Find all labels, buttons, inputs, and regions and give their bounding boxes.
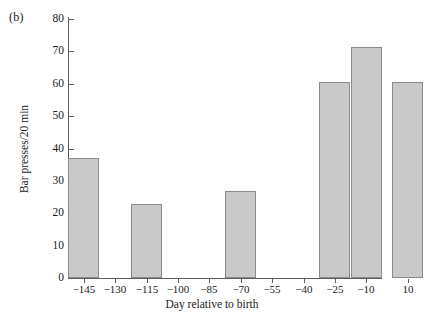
y-tick-label: 70 [24,45,64,57]
y-tick [69,84,74,85]
y-tick [69,19,74,20]
y-tick-label: 0 [24,272,64,284]
y-tick-label: 60 [24,78,64,90]
y-tick-label: 30 [24,175,64,187]
x-axis-title-text: Day relative to birth [166,298,259,310]
y-tick [69,116,74,117]
y-tick-label: 40 [24,143,64,155]
y-tick [69,278,74,279]
x-tick-label: 10 [386,283,427,295]
y-tick [69,149,74,150]
y-tick [69,51,74,52]
bar [68,158,99,278]
bar [225,191,256,278]
y-tick-label: 50 [24,110,64,122]
bar [131,204,162,278]
y-tick-label: 10 [24,240,64,252]
x-tick-label: −10 [344,283,388,295]
panel-label: (b) [9,10,24,25]
bar [351,47,382,278]
bar [392,82,423,278]
x-axis-title: Day relative to birth [0,298,390,310]
bar [319,82,350,278]
y-tick-label: 80 [24,13,64,25]
y-tick-label: 20 [24,207,64,219]
